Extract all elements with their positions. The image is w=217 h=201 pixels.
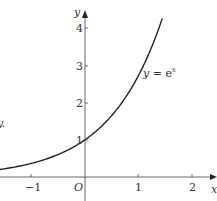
x-axis-arrow-icon — [210, 174, 217, 180]
x-tick-label: 2 — [189, 181, 196, 194]
y-axis-label: y — [73, 6, 81, 19]
origin-label: O — [74, 181, 83, 194]
y-tick-label: 2 — [76, 97, 83, 110]
x-tick-label: −1 — [25, 181, 41, 194]
y-tick-label: 4 — [76, 22, 83, 35]
x-tick-label: 1 — [135, 181, 142, 194]
y-tick-label: 3 — [76, 60, 83, 73]
x-axis-label: x — [211, 183, 217, 196]
y-tick-label: 1 — [76, 134, 83, 147]
y-axis-arrow-icon — [82, 10, 88, 18]
exp-graph: −1 1 2 O x 1 2 3 4 y y = ex y. — [0, 0, 217, 201]
curve-label: y = ex — [142, 66, 176, 80]
edge-text-fragment: y. — [0, 117, 5, 130]
